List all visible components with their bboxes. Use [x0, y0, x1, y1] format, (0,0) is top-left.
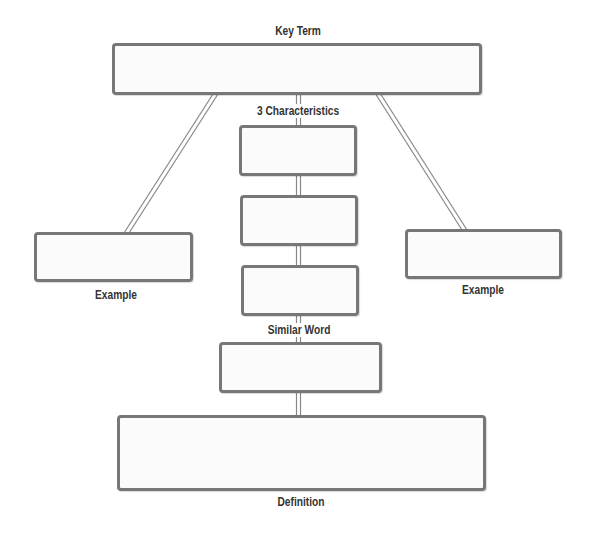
example-right-label: Example: [462, 283, 504, 297]
example-right-box[interactable]: [405, 229, 562, 279]
connector-key-term-to-example-left: [124, 94, 213, 233]
key-term-box[interactable]: [112, 43, 482, 95]
definition-label: Definition: [277, 495, 324, 509]
vocabulary-graphic-organizer: Key Term 3 Characteristics Example Examp…: [0, 0, 589, 533]
characteristic-box-2[interactable]: [240, 195, 358, 246]
characteristics-label: 3 Characteristics: [255, 104, 341, 118]
characteristic-box-3[interactable]: [241, 265, 359, 316]
example-left-label: Example: [95, 288, 137, 302]
characteristic-box-1[interactable]: [239, 125, 357, 176]
definition-box[interactable]: [117, 415, 486, 491]
connector-key-term-to-example-right: [375, 93, 462, 230]
key-term-label: Key Term: [275, 24, 321, 38]
example-left-box[interactable]: [34, 232, 193, 282]
similar-word-label: Similar Word: [266, 323, 332, 337]
similar-word-box[interactable]: [219, 342, 382, 393]
